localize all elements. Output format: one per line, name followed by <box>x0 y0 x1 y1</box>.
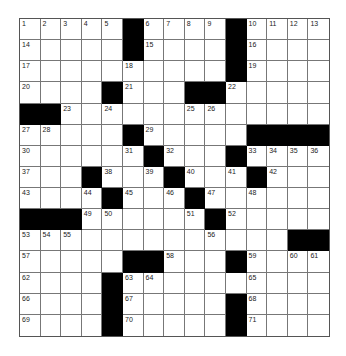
grid-cell[interactable]: 29 <box>144 125 165 146</box>
grid-cell[interactable] <box>288 315 309 336</box>
grid-cell[interactable] <box>164 209 185 230</box>
grid-cell[interactable] <box>82 61 103 82</box>
grid-cell[interactable] <box>308 167 329 188</box>
grid-cell[interactable] <box>288 188 309 209</box>
grid-cell[interactable] <box>164 125 185 146</box>
grid-cell[interactable] <box>308 104 329 125</box>
grid-cell[interactable] <box>267 82 288 103</box>
grid-cell[interactable] <box>226 104 247 125</box>
grid-cell[interactable] <box>308 209 329 230</box>
grid-cell[interactable] <box>205 40 226 61</box>
grid-cell[interactable] <box>267 104 288 125</box>
grid-cell[interactable]: 69 <box>20 315 41 336</box>
grid-cell[interactable] <box>205 61 226 82</box>
grid-cell[interactable] <box>308 61 329 82</box>
grid-cell[interactable] <box>61 273 82 294</box>
grid-cell[interactable]: 13 <box>308 19 329 40</box>
grid-cell[interactable] <box>308 40 329 61</box>
grid-cell[interactable] <box>205 294 226 315</box>
grid-cell[interactable] <box>185 40 206 61</box>
grid-cell[interactable]: 64 <box>144 273 165 294</box>
grid-cell[interactable]: 27 <box>20 125 41 146</box>
grid-cell[interactable]: 71 <box>247 315 268 336</box>
grid-cell[interactable] <box>144 209 165 230</box>
grid-cell[interactable] <box>61 188 82 209</box>
grid-cell[interactable]: 34 <box>267 146 288 167</box>
grid-cell[interactable] <box>82 251 103 272</box>
grid-cell[interactable] <box>267 209 288 230</box>
grid-cell[interactable]: 2 <box>41 19 62 40</box>
grid-cell[interactable] <box>61 167 82 188</box>
grid-cell[interactable]: 10 <box>247 19 268 40</box>
grid-cell[interactable] <box>185 273 206 294</box>
grid-cell[interactable]: 24 <box>102 104 123 125</box>
grid-cell[interactable] <box>226 188 247 209</box>
grid-cell[interactable]: 43 <box>20 188 41 209</box>
grid-cell[interactable]: 16 <box>247 40 268 61</box>
grid-cell[interactable] <box>82 315 103 336</box>
grid-cell[interactable] <box>102 230 123 251</box>
grid-cell[interactable] <box>267 294 288 315</box>
grid-cell[interactable] <box>247 230 268 251</box>
grid-cell[interactable]: 54 <box>41 230 62 251</box>
grid-cell[interactable]: 55 <box>61 230 82 251</box>
grid-cell[interactable] <box>41 315 62 336</box>
grid-cell[interactable] <box>205 146 226 167</box>
grid-cell[interactable] <box>144 294 165 315</box>
grid-cell[interactable]: 36 <box>308 146 329 167</box>
grid-cell[interactable]: 21 <box>123 82 144 103</box>
grid-cell[interactable] <box>288 209 309 230</box>
grid-cell[interactable]: 6 <box>144 19 165 40</box>
grid-cell[interactable] <box>61 251 82 272</box>
grid-cell[interactable] <box>82 230 103 251</box>
grid-cell[interactable] <box>82 40 103 61</box>
grid-cell[interactable] <box>267 251 288 272</box>
grid-cell[interactable]: 57 <box>20 251 41 272</box>
grid-cell[interactable] <box>102 61 123 82</box>
grid-cell[interactable]: 49 <box>82 209 103 230</box>
grid-cell[interactable]: 51 <box>185 209 206 230</box>
grid-cell[interactable] <box>61 146 82 167</box>
grid-cell[interactable] <box>164 40 185 61</box>
grid-cell[interactable] <box>205 273 226 294</box>
grid-cell[interactable] <box>288 82 309 103</box>
grid-cell[interactable]: 14 <box>20 40 41 61</box>
grid-cell[interactable] <box>61 315 82 336</box>
grid-cell[interactable]: 59 <box>247 251 268 272</box>
grid-cell[interactable] <box>41 146 62 167</box>
grid-cell[interactable] <box>308 294 329 315</box>
grid-cell[interactable] <box>144 61 165 82</box>
grid-cell[interactable] <box>267 273 288 294</box>
grid-cell[interactable]: 5 <box>102 19 123 40</box>
grid-cell[interactable]: 42 <box>267 167 288 188</box>
grid-cell[interactable]: 56 <box>205 230 226 251</box>
grid-cell[interactable]: 39 <box>144 167 165 188</box>
grid-cell[interactable] <box>267 188 288 209</box>
grid-cell[interactable] <box>144 230 165 251</box>
grid-cell[interactable]: 11 <box>267 19 288 40</box>
grid-cell[interactable] <box>144 315 165 336</box>
grid-cell[interactable] <box>123 209 144 230</box>
grid-cell[interactable] <box>267 315 288 336</box>
grid-cell[interactable] <box>144 104 165 125</box>
grid-cell[interactable]: 8 <box>185 19 206 40</box>
grid-cell[interactable] <box>288 167 309 188</box>
grid-cell[interactable] <box>164 294 185 315</box>
grid-cell[interactable] <box>102 40 123 61</box>
grid-cell[interactable] <box>226 125 247 146</box>
grid-cell[interactable] <box>185 146 206 167</box>
grid-cell[interactable] <box>185 61 206 82</box>
grid-cell[interactable] <box>308 188 329 209</box>
grid-cell[interactable] <box>164 61 185 82</box>
grid-cell[interactable] <box>164 315 185 336</box>
grid-cell[interactable] <box>144 82 165 103</box>
grid-cell[interactable]: 18 <box>123 61 144 82</box>
grid-cell[interactable]: 40 <box>185 167 206 188</box>
grid-cell[interactable]: 30 <box>20 146 41 167</box>
grid-cell[interactable] <box>226 230 247 251</box>
grid-cell[interactable] <box>41 61 62 82</box>
grid-cell[interactable] <box>61 294 82 315</box>
grid-cell[interactable] <box>41 273 62 294</box>
grid-cell[interactable]: 32 <box>164 146 185 167</box>
grid-cell[interactable] <box>41 82 62 103</box>
